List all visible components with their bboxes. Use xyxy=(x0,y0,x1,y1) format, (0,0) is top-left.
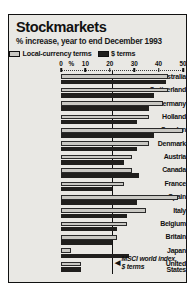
bar-group xyxy=(61,222,184,233)
bar-local xyxy=(61,128,183,133)
bar-local xyxy=(61,155,132,160)
chart-row: Holland xyxy=(9,113,186,126)
bar-dollar xyxy=(61,200,137,205)
bar-local xyxy=(61,168,132,173)
legend-label-local: Local-currency terms xyxy=(23,49,92,58)
axis-tick-mark xyxy=(60,68,62,72)
axis-tick-label: 0 xyxy=(59,60,63,67)
axis-tick-mark xyxy=(133,68,135,72)
axis-tick-mark xyxy=(158,68,160,72)
chart-header: Stockmarkets % increase, year to end Dec… xyxy=(9,15,186,46)
bar-dollar xyxy=(61,93,154,98)
bar-group xyxy=(61,101,184,112)
chart-row: France xyxy=(9,180,186,193)
bar-local xyxy=(61,182,124,187)
annotation-line-2: $ terms xyxy=(122,263,145,270)
bar-group xyxy=(61,141,184,152)
chart-row: Denmark xyxy=(9,140,186,153)
bar-local xyxy=(61,141,149,146)
legend-label-dollar: $ terms xyxy=(111,49,135,58)
axis-tick-label: 20 xyxy=(106,60,113,67)
legend-item-dollar: $ terms xyxy=(98,49,136,58)
bar-dollar xyxy=(61,267,81,272)
bar-group xyxy=(61,168,184,179)
bar-group xyxy=(61,182,184,193)
bar-local xyxy=(61,248,71,253)
legend-item-local-currency: Local-currency terms xyxy=(9,49,92,58)
chart-row: Belgium xyxy=(9,221,186,234)
axis-tick-mark xyxy=(182,68,184,72)
arrow-left-icon: ◀ xyxy=(115,255,120,266)
bar-local xyxy=(61,222,127,227)
bar-dollar xyxy=(61,80,166,85)
axis-tick-label: 10 xyxy=(82,60,89,67)
bar-dollar xyxy=(61,133,154,138)
bar-local xyxy=(61,74,168,79)
bar-local xyxy=(61,88,168,93)
bar-group xyxy=(61,115,184,126)
bar-group xyxy=(61,235,184,246)
legend-swatch-dollar-icon xyxy=(98,51,109,57)
bar-dollar xyxy=(61,227,117,232)
bar-dollar xyxy=(61,160,124,165)
bar-local xyxy=(61,208,146,213)
chart-row: Germany xyxy=(9,100,186,113)
bar-group xyxy=(61,128,184,139)
bar-dollar xyxy=(61,214,127,219)
bar-group xyxy=(61,88,184,99)
chart-row: Italy xyxy=(9,207,186,220)
axis-percent-label: % xyxy=(68,60,74,67)
chart-row: Switzerland xyxy=(9,87,186,100)
bar-group xyxy=(61,155,184,166)
chart-row: Sweden xyxy=(9,127,186,140)
chart-row: Spain xyxy=(9,194,186,207)
legend-swatch-local-icon xyxy=(9,51,20,57)
bar-dollar xyxy=(61,240,112,245)
axis-tick-label: 50 xyxy=(179,60,186,67)
axis-rule xyxy=(61,70,183,71)
bar-group xyxy=(61,195,184,206)
bar-group xyxy=(61,74,184,85)
chart-row: Australia xyxy=(9,73,186,86)
bar-dollar xyxy=(61,187,112,192)
bar-rows: AustraliaSwitzerlandGermanyHollandSweden… xyxy=(9,73,186,274)
bar-local xyxy=(61,235,117,240)
chart-subtitle: % increase, year to end December 1993 xyxy=(16,37,186,46)
plot-area: 0%1020304050 AustraliaSwitzerlandGermany… xyxy=(9,60,186,274)
chart-container: Stockmarkets % increase, year to end Dec… xyxy=(8,14,187,283)
axis-tick-label: 30 xyxy=(131,60,138,67)
axis-tick-mark xyxy=(109,68,111,72)
annotation-text: MSCI world index, $ terms xyxy=(122,255,177,270)
chart-row: Austria xyxy=(9,154,186,167)
bar-local xyxy=(61,101,163,106)
chart-row: Canada xyxy=(9,167,186,180)
x-axis: 0%1020304050 xyxy=(9,60,186,73)
bar-local xyxy=(61,115,149,120)
chart-row: Britain xyxy=(9,234,186,247)
bar-group xyxy=(61,208,184,219)
bar-local xyxy=(61,262,81,267)
chart-title: Stockmarkets xyxy=(16,20,186,35)
bar-dollar xyxy=(61,173,139,178)
axis-tick-label: 40 xyxy=(155,60,162,67)
annotation-line-1: MSCI world index, xyxy=(122,255,177,262)
bar-dollar xyxy=(61,147,137,152)
bar-dollar xyxy=(61,106,149,111)
axis-tick-mark xyxy=(85,68,87,72)
reference-line-annotation: ◀ MSCI world index, $ terms xyxy=(115,255,177,270)
bar-dollar xyxy=(61,120,137,125)
bar-local xyxy=(61,195,178,200)
chart-legend: Local-currency terms $ terms xyxy=(9,49,186,58)
